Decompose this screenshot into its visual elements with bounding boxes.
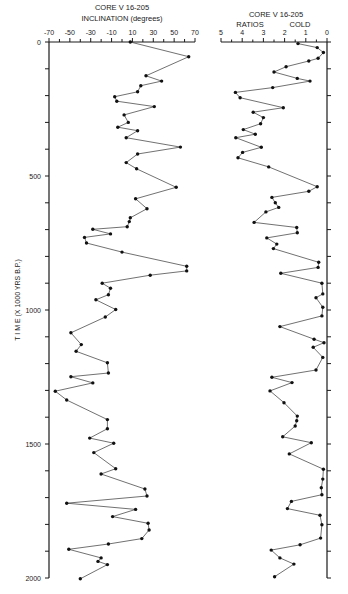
data-point	[127, 121, 130, 124]
data-point	[241, 151, 244, 154]
data-point	[106, 427, 109, 430]
series-line	[55, 42, 188, 579]
data-point	[270, 196, 273, 199]
data-point	[145, 494, 148, 497]
data-point	[316, 185, 319, 188]
chart-svg: CORE V 16-205 INCLINATION (degrees) CORE…	[0, 0, 348, 594]
left-x-tick-label: 50	[170, 29, 178, 36]
data-point	[160, 79, 163, 82]
data-point	[234, 136, 237, 139]
right-axes: 543210	[219, 29, 331, 578]
data-point	[265, 236, 268, 239]
data-point	[272, 70, 275, 73]
data-point	[277, 206, 280, 209]
data-point	[278, 556, 281, 559]
data-point	[79, 577, 82, 580]
right-x-tick-label: 1	[304, 29, 308, 36]
data-point	[234, 91, 237, 94]
data-point	[310, 441, 313, 444]
data-point	[270, 376, 273, 379]
data-point	[274, 201, 277, 204]
data-point	[260, 146, 263, 149]
right-x-tick-label: 0	[325, 29, 329, 36]
data-point	[175, 186, 178, 189]
right-x-tick-label: 4	[240, 29, 244, 36]
y-tick-label: 0	[37, 39, 41, 46]
data-point	[320, 493, 323, 496]
data-point	[290, 381, 293, 384]
data-point	[99, 556, 102, 559]
right-chart-title: CORE V 16-205	[249, 10, 303, 19]
data-point	[134, 508, 137, 511]
data-point	[308, 79, 311, 82]
data-point	[322, 51, 325, 54]
data-point	[116, 126, 119, 129]
right-x-tick-label: 5	[219, 29, 223, 36]
data-point	[67, 548, 70, 551]
data-point	[316, 266, 319, 269]
data-point	[140, 537, 143, 540]
data-point	[312, 346, 315, 349]
left-axes: -70-50-30-10103050700500100015002000	[25, 29, 199, 582]
data-point	[268, 389, 271, 392]
inclination-series	[54, 40, 191, 580]
data-point	[320, 314, 323, 317]
data-point	[320, 523, 323, 526]
data-point	[295, 226, 298, 229]
data-point	[74, 350, 77, 353]
data-point	[83, 236, 86, 239]
left-x-tick-label: 10	[129, 29, 137, 36]
data-point	[135, 167, 138, 170]
data-point	[88, 436, 91, 439]
right-chart-subtitle-cold: COLD	[290, 20, 311, 29]
data-point	[321, 356, 324, 359]
data-point	[312, 338, 315, 341]
data-point	[113, 95, 116, 98]
data-point	[54, 390, 57, 393]
data-point	[296, 414, 299, 417]
data-point	[317, 261, 320, 264]
data-point	[254, 133, 257, 136]
data-point	[107, 293, 110, 296]
data-point	[69, 331, 72, 334]
data-point	[101, 282, 104, 285]
data-point	[107, 371, 110, 374]
data-point	[106, 563, 109, 566]
data-point	[126, 225, 129, 228]
data-point	[292, 562, 295, 565]
data-point	[114, 308, 117, 311]
data-point	[267, 165, 270, 168]
data-point	[104, 315, 107, 318]
data-point	[109, 232, 112, 235]
data-point	[146, 522, 149, 525]
data-point	[185, 265, 188, 268]
data-point	[322, 341, 325, 344]
data-point	[145, 207, 148, 210]
data-point	[298, 543, 301, 546]
data-point	[296, 77, 299, 80]
data-point	[278, 325, 281, 328]
data-point	[122, 113, 125, 116]
data-point	[264, 210, 267, 213]
data-point	[179, 145, 182, 148]
data-point	[296, 42, 299, 45]
data-point	[85, 241, 88, 244]
data-point	[281, 435, 284, 438]
data-point	[94, 298, 97, 301]
data-point	[238, 96, 241, 99]
data-point	[136, 90, 139, 93]
data-point	[106, 418, 109, 421]
data-point	[96, 560, 99, 563]
data-point	[275, 242, 278, 245]
data-point	[320, 486, 323, 489]
data-point	[125, 161, 128, 164]
data-point	[314, 368, 317, 371]
data-point	[321, 477, 324, 480]
data-point	[92, 451, 95, 454]
data-point	[318, 514, 321, 517]
left-x-tick-label: -70	[44, 29, 54, 36]
series-line	[235, 44, 324, 577]
data-point	[125, 136, 128, 139]
data-point	[129, 216, 132, 219]
data-point	[136, 129, 139, 132]
